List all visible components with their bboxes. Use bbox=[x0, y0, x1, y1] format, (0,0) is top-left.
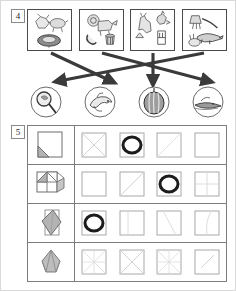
row-3-option-3[interactable] bbox=[154, 208, 184, 238]
row-2-option-2[interactable] bbox=[117, 169, 147, 199]
grid-row-2 bbox=[28, 165, 226, 204]
picture-box-3[interactable] bbox=[130, 9, 175, 51]
exercise-5-grid bbox=[27, 125, 227, 282]
folded-quarters-icon bbox=[33, 167, 69, 201]
broom-crocodile-rabbit-icon bbox=[183, 10, 226, 50]
picture-box-4[interactable] bbox=[182, 9, 227, 51]
animals-and-nest-icon bbox=[28, 10, 71, 50]
selection-ring bbox=[83, 214, 104, 233]
arrow-box2-to-circle4 bbox=[102, 53, 208, 81]
selection-ring bbox=[121, 136, 142, 155]
arrow-box4-to-circle1 bbox=[59, 53, 204, 81]
row-3-option-1[interactable] bbox=[79, 208, 109, 238]
row-3-prompt bbox=[28, 204, 75, 242]
vertical-crease-square-icon bbox=[117, 208, 147, 238]
picture-box-2[interactable] bbox=[79, 9, 124, 51]
diagonal-crease-square-icon bbox=[154, 130, 184, 160]
selection-ring bbox=[159, 175, 180, 194]
row-4-option-4[interactable] bbox=[192, 247, 222, 277]
row-4-options bbox=[75, 243, 226, 281]
row-3-option-2[interactable] bbox=[117, 208, 147, 238]
lion-and-objects-icon bbox=[80, 10, 123, 50]
blank-square-icon bbox=[192, 130, 222, 160]
grid-row-4 bbox=[28, 243, 226, 281]
grid-row-3 bbox=[28, 204, 226, 243]
row-1-prompt bbox=[28, 126, 75, 164]
row-2-option-1[interactable] bbox=[79, 169, 109, 199]
row-1-option-1[interactable] bbox=[79, 130, 109, 160]
kangaroo-bird-chair-icon bbox=[131, 10, 174, 50]
row-3-options bbox=[75, 204, 226, 242]
exercise-5: 5 bbox=[1, 123, 236, 288]
slanted-crease-square-icon bbox=[192, 208, 222, 238]
blank-square-icon bbox=[79, 169, 109, 199]
exercise-4-circle-row bbox=[27, 85, 227, 119]
folded-square-corner-icon bbox=[33, 128, 69, 162]
row-4-option-2[interactable] bbox=[117, 247, 147, 277]
row-3-option-4[interactable] bbox=[192, 208, 222, 238]
x-crease-square-icon bbox=[79, 130, 109, 160]
magnifying-glass-icon bbox=[27, 85, 65, 119]
picture-box-1[interactable] bbox=[27, 9, 72, 51]
crocodile-icon bbox=[189, 85, 227, 119]
diagonal-crease-square-icon bbox=[117, 169, 147, 199]
exercise-4-number: 4 bbox=[11, 9, 25, 23]
cross-crease-square-icon bbox=[192, 169, 222, 199]
row-4-prompt bbox=[28, 243, 75, 281]
star-crease-square-icon bbox=[154, 247, 184, 277]
worksheet-page: 4 bbox=[0, 0, 236, 291]
row-1-option-3[interactable] bbox=[154, 130, 184, 160]
row-2-option-3[interactable] bbox=[154, 169, 184, 199]
grid-row-1 bbox=[28, 126, 226, 165]
row-1-option-2[interactable] bbox=[117, 130, 147, 160]
row-1-option-4[interactable] bbox=[192, 130, 222, 160]
x-crease-square-icon bbox=[117, 247, 147, 277]
exercise-4-picture-row bbox=[27, 9, 227, 51]
row-2-option-4[interactable] bbox=[192, 169, 222, 199]
answer-circle-4[interactable] bbox=[189, 85, 227, 119]
row-1-options bbox=[75, 126, 226, 164]
exercise-5-number: 5 bbox=[11, 125, 25, 139]
answer-circle-3[interactable] bbox=[135, 85, 173, 119]
diagonal-crease-square-icon bbox=[154, 208, 184, 238]
row-4-option-3[interactable] bbox=[154, 247, 184, 277]
star-crease-square-icon bbox=[79, 247, 109, 277]
pumpkin-icon bbox=[135, 85, 173, 119]
folded-tulip-icon bbox=[33, 245, 69, 279]
row-2-options bbox=[75, 165, 226, 203]
answer-circle-2[interactable] bbox=[81, 85, 119, 119]
answer-circle-1[interactable] bbox=[27, 85, 65, 119]
folded-kite-icon bbox=[33, 206, 69, 240]
exercise-4: 4 bbox=[1, 1, 236, 121]
diagonal-crease-square-icon bbox=[192, 247, 222, 277]
dolphin-icon bbox=[81, 85, 119, 119]
row-4-option-1[interactable] bbox=[79, 247, 109, 277]
row-2-prompt bbox=[28, 165, 75, 203]
arrow-box1-to-circle2 bbox=[51, 53, 111, 81]
